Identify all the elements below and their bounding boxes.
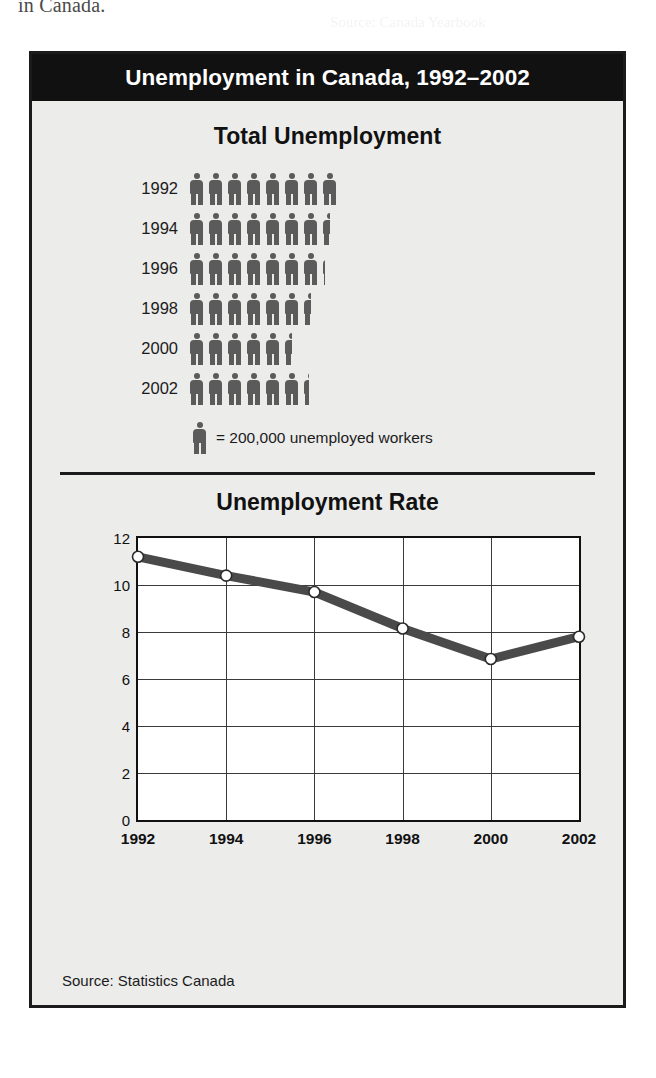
data-point-marker [133,551,144,562]
person-icon [246,333,261,365]
page-bleed-text: in Canada. [18,0,106,17]
person-icon [227,253,242,285]
line-series [138,538,579,820]
pictograph-row-year: 1996 [137,259,189,278]
person-icon [284,213,299,245]
pictograph-row-year: 2002 [137,379,189,398]
person-icon [189,173,204,205]
figure-banner: Unemployment in Canada, 1992–2002 [32,54,623,101]
person-icon [246,373,261,405]
person-icon [303,173,318,205]
person-icon [227,373,242,405]
data-point-marker [485,653,496,664]
pictograph-icon-group [189,331,296,365]
x-axis-tick-label: 1992 [121,830,155,848]
pictograph-row: 2000 [137,328,623,368]
data-point-marker [309,586,320,597]
pictograph-icon-group [189,371,313,405]
plot-area: Percent of Labor Force 02468101219921994… [60,532,623,844]
person-icon [284,253,299,285]
figure-title: Unemployment in Canada, 1992–2002 [125,65,530,91]
x-axis-tick-label: 1994 [209,830,243,848]
legend-label: = 200,000 unemployed workers [216,429,433,447]
person-icon [246,253,261,285]
pictograph-row: 2002 [137,368,623,408]
person-icon [322,213,330,245]
person-icon [208,293,223,325]
person-icon [227,293,242,325]
person-icon [265,293,280,325]
plot-canvas: 024681012199219941996199820002002 [136,536,581,822]
x-axis-tick-label: 1996 [297,830,331,848]
person-icon [284,333,292,365]
person-icon [189,213,204,245]
person-icon [189,373,204,405]
pictograph-row: 1992 [137,168,623,208]
line-chart: Unemployment Rate Percent of Labor Force… [32,475,623,844]
source-note: Source: Statistics Canada [62,972,235,989]
pictograph-legend: = 200,000 unemployed workers [32,422,623,454]
person-icon [303,293,311,325]
person-icon [208,173,223,205]
person-icon [189,333,204,365]
ghost-text: Source: Canada Yearbook [330,14,485,31]
person-icon [208,373,223,405]
person-icon [303,213,318,245]
pictograph-row-year: 1992 [137,179,189,198]
person-icon [265,333,280,365]
person-icon [265,173,280,205]
pictograph-icon-group [189,251,329,285]
y-axis-tick-label: 10 [113,576,130,593]
pictograph-title: Total Unemployment [32,123,623,150]
y-axis-tick-label: 8 [122,623,130,640]
person-icon [265,373,280,405]
pictograph-chart: Total Unemployment 199219941996199820002… [32,101,623,454]
person-icon [208,253,223,285]
pictograph-row: 1998 [137,288,623,328]
y-axis-tick-label: 6 [122,670,130,687]
person-icon [322,173,337,205]
pictograph-icon-group [189,171,341,205]
person-icon [189,253,204,285]
person-icon [227,173,242,205]
person-icon [265,213,280,245]
data-point-marker [221,570,232,581]
y-axis-tick-label: 4 [122,717,130,734]
line-chart-title: Unemployment Rate [32,489,623,516]
person-icon [284,293,299,325]
person-icon [227,213,242,245]
data-point-marker [574,631,585,642]
y-axis-tick-label: 0 [122,811,130,828]
chart-figure: Unemployment in Canada, 1992–2002 Total … [29,51,626,1008]
person-icon [227,333,242,365]
person-icon [284,373,299,405]
person-icon [322,253,325,285]
person-icon [246,173,261,205]
pictograph-row-year: 1994 [137,219,189,238]
y-axis-tick-label: 12 [113,529,130,546]
person-icon [192,422,207,454]
data-point-marker [397,622,408,633]
person-icon [265,253,280,285]
pictograph-icon-group [189,211,334,245]
pictograph-row: 1996 [137,248,623,288]
pictograph-icon-group [189,291,315,325]
person-icon [208,213,223,245]
y-axis-tick-label: 2 [122,764,130,781]
person-icon [284,173,299,205]
x-axis-tick-label: 2002 [562,830,596,848]
pictograph-row: 1994 [137,208,623,248]
person-icon [208,333,223,365]
x-axis-tick-label: 1998 [385,830,419,848]
person-icon [246,213,261,245]
person-icon [303,253,318,285]
series-line [138,556,579,658]
x-axis-tick-label: 2000 [474,830,508,848]
person-icon [246,293,261,325]
pictograph-row-year: 2000 [137,339,189,358]
pictograph-row-year: 1998 [137,299,189,318]
person-icon [303,373,309,405]
pictograph-rows: 199219941996199820002002 [32,168,623,408]
person-icon [189,293,204,325]
plot-wrap: 024681012199219941996199820002002 [136,536,581,822]
